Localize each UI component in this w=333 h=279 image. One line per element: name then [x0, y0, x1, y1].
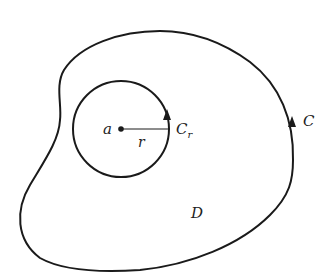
inner-circle-label: Cr: [176, 120, 193, 140]
outer-contour-label: C: [303, 112, 315, 130]
center-label: a: [103, 120, 112, 138]
center-point: [118, 126, 124, 132]
contour-diagram: a r Cr C D: [0, 0, 333, 279]
radius-label: r: [138, 134, 146, 150]
outer-contour-c: [20, 31, 293, 271]
inner-circle-arrow-icon: [163, 109, 171, 120]
region-label: D: [190, 204, 203, 222]
